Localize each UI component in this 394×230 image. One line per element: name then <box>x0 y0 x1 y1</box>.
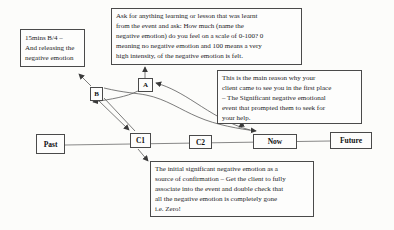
timeline-node-c1: C1 <box>130 133 151 148</box>
note-main-reason: This is the main reason why your client … <box>217 70 362 124</box>
diagram-canvas: Ask for anything learning or lesson that… <box>0 0 394 230</box>
position-b-box: B <box>90 87 103 101</box>
connector-c1-to-bottom-note <box>138 149 148 161</box>
timeline-node-now: Now <box>253 134 297 149</box>
note-confirmation: The initial significant negative emotion… <box>150 161 314 217</box>
position-a-box: A <box>138 78 153 92</box>
timeline-node-c2: C2 <box>189 135 212 149</box>
timeline-node-past: Past <box>36 134 65 154</box>
connector-b-to-c1-lower <box>104 98 135 131</box>
timeline-node-future: Future <box>330 132 372 149</box>
note-scale-question: Ask for anything learning or lesson that… <box>111 8 302 65</box>
note-15mins-before: 15mins B/4 – And releasing the negative … <box>20 29 85 67</box>
connector-b-to-c1-upper <box>99 101 129 130</box>
connector-b-to-left-note <box>79 74 91 86</box>
